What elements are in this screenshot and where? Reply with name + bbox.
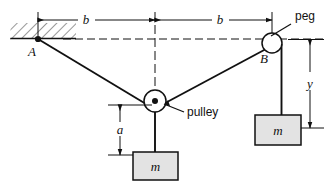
mass-block-right: m	[255, 115, 301, 145]
diagram-canvas: b b A B peg	[0, 0, 328, 184]
pulley-peg-diagram: b b A B peg	[0, 0, 328, 184]
peg-leader-line	[271, 24, 291, 36]
cord-a-to-pulley	[38, 39, 149, 106]
ceiling-support	[10, 23, 76, 39]
dimension-b-right: b	[155, 12, 272, 27]
dim-y-label: y	[305, 76, 313, 91]
point-a-label: A	[27, 44, 36, 59]
dim-b-left-label: b	[83, 12, 90, 27]
anchor-a-dot	[35, 36, 41, 42]
dim-a-label: a	[117, 122, 124, 137]
peg-label: peg	[295, 9, 315, 23]
mass-bottom-label: m	[151, 159, 160, 174]
pulley-label: pulley	[187, 105, 218, 119]
anchor-point-a: A	[27, 36, 41, 59]
mass-block-bottom: m	[133, 152, 178, 180]
mass-right-label: m	[273, 123, 282, 138]
point-b-label: B	[260, 51, 268, 66]
peg-assembly: B peg	[260, 9, 315, 66]
hatch-fill	[10, 23, 76, 38]
dimension-a: a	[108, 105, 152, 155]
pulley-axle-dot	[152, 98, 158, 104]
cord-pulley-to-peg	[162, 49, 267, 105]
dim-b-right-label: b	[217, 12, 224, 27]
